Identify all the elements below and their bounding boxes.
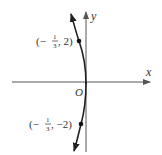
point-upper-frac-den: 3 (53, 42, 57, 50)
point-upper-label-suffix: , 2) (58, 35, 73, 48)
point-lower-label: (− 1 3 , −2) (29, 116, 72, 133)
x-axis-label: x (145, 65, 152, 79)
point-lower-label-suffix: , −2) (51, 118, 72, 131)
point-upper-label-prefix: (− (36, 35, 46, 48)
graph-canvas: y x O (− 1 3 , 2) (− 1 3 , −2) (0, 0, 162, 155)
y-axis-label: y (90, 9, 97, 23)
point-lower-frac-den: 3 (46, 125, 50, 133)
point-lower-label-prefix: (− (29, 118, 39, 131)
point-lower (79, 122, 84, 127)
curve-upper-branch (71, 14, 86, 84)
point-upper-frac-num: 1 (53, 33, 57, 41)
point-upper-label: (− 1 3 , 2) (36, 33, 73, 50)
point-lower-frac-num: 1 (46, 116, 50, 124)
point-upper (77, 39, 82, 44)
origin-label: O (75, 86, 83, 98)
